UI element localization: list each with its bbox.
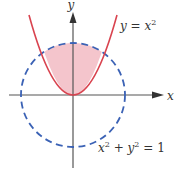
diagram-figure: y x y = x2 x2 + y2 = 1 [0, 0, 178, 176]
parabola-label-eq: = [127, 19, 145, 33]
circle-label-one: 1 [157, 141, 165, 155]
x-axis-label: x [167, 89, 174, 103]
y-axis-label: y [67, 0, 75, 12]
x-axis [9, 92, 164, 99]
circle-label: x2 + y2 = 1 [98, 140, 165, 155]
parabola-label-exp: 2 [151, 18, 156, 27]
parabola-label: y = x2 [119, 18, 156, 33]
circle-label-plus: + [110, 141, 128, 155]
circle-label-eq: = [139, 141, 157, 155]
x-axis-arrow-icon [152, 92, 164, 99]
diagram-canvas: y x y = x2 x2 + y2 = 1 [0, 0, 178, 176]
y-axis-arrow-icon [70, 12, 77, 23]
